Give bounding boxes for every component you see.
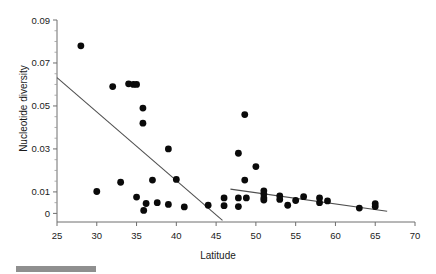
svg-text:30: 30 [91,230,102,241]
data-point [276,196,283,203]
data-point [173,176,180,183]
data-point [235,195,242,202]
data-point [143,200,150,207]
data-point [252,163,259,170]
svg-text:0.09: 0.09 [32,15,51,26]
svg-text:0.01: 0.01 [32,186,51,197]
svg-text:25: 25 [52,230,63,241]
axes [53,20,415,226]
data-point [77,42,84,49]
svg-text:0.03: 0.03 [32,143,51,154]
data-point [235,203,242,210]
data-point [133,81,140,88]
scatter-plot-figure: 00.010.030.050.070.092530354045505560657… [0,0,436,274]
data-point [205,202,212,209]
data-point [372,203,379,210]
data-point [260,197,267,204]
svg-text:50: 50 [251,230,262,241]
fit-line-northern-trend [230,189,387,211]
data-points [77,42,378,213]
data-point [235,150,242,157]
data-point [165,201,172,208]
svg-text:70: 70 [410,230,421,241]
x-axis-label: Latitude [0,250,436,261]
svg-text:60: 60 [330,230,341,241]
svg-text:55: 55 [290,230,301,241]
svg-text:65: 65 [370,230,381,241]
plot-canvas: 00.010.030.050.070.092530354045505560657… [0,0,436,274]
data-point [316,199,323,206]
data-point [140,105,147,112]
data-point [109,83,116,90]
data-point [324,198,331,205]
data-point [241,177,248,184]
data-point [117,179,124,186]
y-axis-label: Nucleotide diversity [18,34,29,184]
data-point [243,195,250,202]
data-point [149,177,156,184]
data-point [356,205,363,212]
data-point [300,193,307,200]
data-point [93,188,100,195]
data-point [221,195,228,202]
data-point [241,111,248,118]
svg-text:0: 0 [45,208,50,219]
data-point [165,146,172,153]
svg-text:0.07: 0.07 [32,57,51,68]
svg-text:35: 35 [131,230,142,241]
svg-text:45: 45 [211,230,222,241]
footer-gray-bar [16,266,96,272]
data-point [133,194,140,201]
data-point [140,120,147,127]
data-point [140,207,147,214]
svg-text:40: 40 [171,230,182,241]
data-point [221,202,228,209]
fit-line-southern-trend [57,78,222,221]
data-point [181,204,188,211]
svg-text:0.05: 0.05 [32,100,51,111]
data-point [154,199,161,206]
data-point [292,197,299,204]
data-point [284,202,291,209]
